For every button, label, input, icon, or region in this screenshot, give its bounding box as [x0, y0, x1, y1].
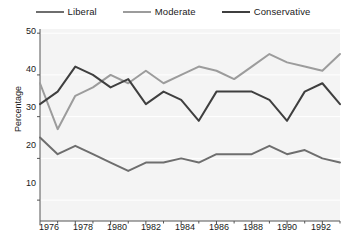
plot-area [0, 0, 346, 247]
line-chart: Liberal Moderate Conservative Percentage… [0, 0, 346, 247]
plot-background [40, 29, 340, 221]
